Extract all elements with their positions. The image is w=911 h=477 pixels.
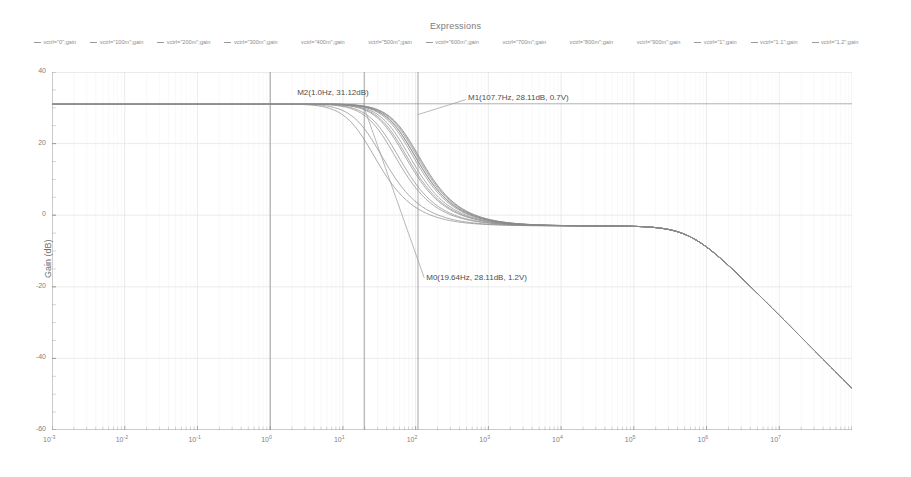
marker-label-m2[interactable]: M2(1.0Hz, 31.12dB): [297, 88, 369, 97]
gain-curve: [52, 104, 852, 388]
x-tick-label: 102: [407, 436, 418, 443]
x-tick-label: 101: [334, 436, 345, 443]
y-tick-label: -20: [20, 282, 46, 289]
x-tick-label: 105: [625, 436, 636, 443]
gain-curve: [52, 104, 852, 388]
legend-color-swatch: [292, 42, 299, 43]
x-tick-label: 106: [698, 436, 709, 443]
legend-item-label: vctrl="300m";gain: [234, 37, 278, 47]
legend-item-label: vctrl="600m";gain: [435, 37, 479, 47]
legend: vctrl="0";gainvctrl="100m";gainvctrl="20…: [34, 37, 899, 47]
x-tick-mantissa: 10: [334, 436, 342, 443]
y-tick-label: 40: [20, 67, 46, 74]
gain-curve: [52, 104, 852, 388]
x-tick-label: 107: [770, 436, 781, 443]
legend-color-swatch: [34, 42, 41, 43]
x-tick-mantissa: 10: [552, 436, 560, 443]
gain-curve: [52, 104, 852, 388]
y-tick-label: -40: [20, 353, 46, 360]
marker-label-m0[interactable]: M0(19.64Hz, 28.11dB, 1.2V): [426, 273, 527, 282]
chart-screenshot: Expressions vctrl="0";gainvctrl="100m";g…: [0, 0, 911, 477]
x-tick-exponent: 6: [705, 434, 708, 440]
x-tick-mantissa: 10: [43, 436, 51, 443]
legend-item-label: vctrl="1.1";gain: [760, 37, 797, 47]
x-tick-exponent: 2: [414, 434, 417, 440]
legend-item-label: vctrl="500m";gain: [368, 37, 412, 47]
plot-svg: [52, 72, 852, 430]
plot-area: Gain (dB) freq (Hz) 10-310-210-110010110…: [52, 72, 852, 430]
legend-item[interactable]: vctrl="900m";gain: [627, 37, 680, 47]
legend-item[interactable]: vctrl="500m";gain: [359, 37, 412, 47]
x-tick-exponent: 3: [487, 434, 490, 440]
x-tick-exponent: 7: [778, 434, 781, 440]
gain-curve: [52, 104, 852, 388]
x-tick-label: 104: [552, 436, 563, 443]
gain-curve: [52, 104, 852, 388]
x-tick-label: 10-1: [188, 436, 200, 443]
marker-leader-m0: [364, 108, 424, 278]
gain-curve: [52, 104, 852, 388]
x-tick-exponent: -2: [124, 434, 129, 440]
x-tick-exponent: 5: [633, 434, 636, 440]
legend-item[interactable]: vctrl="200m";gain: [157, 37, 210, 47]
legend-item[interactable]: vctrl="1";gain: [694, 37, 736, 47]
y-tick-label: 20: [20, 139, 46, 146]
y-tick-label: 0: [20, 210, 46, 217]
legend-color-swatch: [426, 42, 433, 43]
legend-color-swatch: [359, 42, 366, 43]
x-tick-exponent: -1: [196, 434, 201, 440]
x-tick-label: 100: [261, 436, 272, 443]
x-tick-mantissa: 10: [770, 436, 778, 443]
gain-curve: [52, 104, 852, 388]
legend-item-label: vctrl="700m";gain: [502, 37, 546, 47]
x-tick-exponent: 0: [269, 434, 272, 440]
legend-item-label: vctrl="1";gain: [704, 37, 737, 47]
legend-item[interactable]: vctrl="600m";gain: [426, 37, 479, 47]
legend-item-label: vctrl="100m";gain: [100, 37, 144, 47]
x-tick-label: 103: [479, 436, 490, 443]
legend-item[interactable]: vctrl="700m";gain: [493, 37, 546, 47]
legend-item[interactable]: vctrl="800m";gain: [560, 37, 613, 47]
legend-item-label: vctrl="900m";gain: [637, 37, 681, 47]
x-tick-label: 10-2: [116, 436, 128, 443]
gain-curve: [52, 104, 852, 388]
legend-item-label: vctrl="200m";gain: [167, 37, 211, 47]
legend-item[interactable]: vctrl="1.2";gain: [812, 37, 859, 47]
legend-item[interactable]: vctrl="0";gain: [34, 37, 76, 47]
gain-curve: [52, 104, 852, 388]
x-tick-mantissa: 10: [261, 436, 269, 443]
legend-item[interactable]: vctrl="400m";gain: [292, 37, 345, 47]
marker-leader-m1: [418, 100, 466, 115]
gain-curve: [52, 104, 852, 388]
legend-color-swatch: [90, 42, 97, 43]
legend-color-swatch: [694, 42, 701, 43]
legend-color-swatch: [812, 42, 819, 43]
x-tick-exponent: 1: [342, 434, 345, 440]
gain-curve: [52, 104, 852, 388]
marker-label-m1[interactable]: M1(107.7Hz, 28.11dB, 0.7V): [468, 93, 569, 102]
y-axis-label: Gain (dB): [43, 239, 53, 278]
legend-item[interactable]: vctrl="300m";gain: [224, 37, 277, 47]
x-tick-label: 10-3: [43, 436, 55, 443]
legend-item-label: vctrl="800m";gain: [570, 37, 614, 47]
x-tick-exponent: 4: [560, 434, 563, 440]
legend-color-swatch: [224, 42, 231, 43]
legend-item[interactable]: vctrl="1.1";gain: [751, 37, 798, 47]
y-tick-label: -60: [20, 425, 46, 432]
x-tick-mantissa: 10: [479, 436, 487, 443]
legend-color-swatch: [560, 42, 567, 43]
legend-color-swatch: [493, 42, 500, 43]
legend-color-swatch: [627, 42, 634, 43]
x-tick-mantissa: 10: [625, 436, 633, 443]
x-tick-exponent: -3: [51, 434, 56, 440]
legend-item-label: vctrl="400m";gain: [301, 37, 345, 47]
legend-color-swatch: [157, 42, 164, 43]
x-tick-mantissa: 10: [116, 436, 124, 443]
legend-color-swatch: [751, 42, 758, 43]
legend-item-label: vctrl="0";gain: [44, 37, 77, 47]
chart-title: Expressions: [0, 21, 911, 31]
legend-item[interactable]: vctrl="100m";gain: [90, 37, 143, 47]
legend-item-label: vctrl="1.2";gain: [821, 37, 858, 47]
gain-curve: [52, 104, 852, 388]
